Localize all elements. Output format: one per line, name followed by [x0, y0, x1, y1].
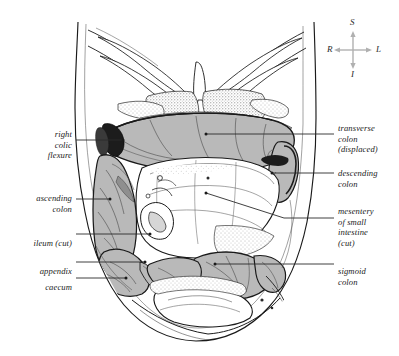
label-ascending-colon: ascending colon — [36, 183, 72, 214]
label-caecum: caecum — [45, 272, 72, 293]
label-mesentery-of-small-intestine-text: mesentery of small intestine (cut) — [338, 206, 374, 247]
label-caecum-text: caecum — [45, 282, 72, 292]
label-descending-colon: descending colon — [338, 158, 378, 189]
compass-right-text: R — [327, 44, 333, 54]
label-transverse-colon: transverse colon (displaced) — [338, 113, 378, 155]
compass-label-superior: S — [350, 17, 355, 27]
compass-inferior-text: I — [351, 69, 354, 79]
compass-label-right: R — [327, 44, 333, 54]
label-mesentery-of-small-intestine: mesentery of small intestine (cut) — [338, 196, 374, 248]
label-sigmoid-colon: sigmoid colon — [338, 256, 366, 287]
compass-label-left: L — [376, 44, 381, 54]
label-right-colic-flexure: right colic flexure — [48, 119, 72, 161]
label-descending-colon-text: descending colon — [338, 168, 378, 188]
label-ascending-colon-text: ascending colon — [36, 193, 72, 213]
label-ileum-cut: ileum (cut) — [33, 228, 72, 249]
compass-axes — [337, 34, 369, 66]
compass-left-text: L — [376, 44, 381, 54]
anatomical-figure: right colic flexure ascending colon ileu… — [0, 0, 399, 356]
label-transverse-colon-text: transverse colon (displaced) — [338, 123, 378, 154]
label-right-colic-flexure-text: right colic flexure — [48, 129, 72, 160]
compass-label-inferior: I — [351, 69, 354, 79]
compass-superior-text: S — [350, 17, 355, 27]
label-ileum-cut-text: ileum (cut) — [33, 238, 72, 248]
label-sigmoid-colon-text: sigmoid colon — [338, 266, 366, 286]
